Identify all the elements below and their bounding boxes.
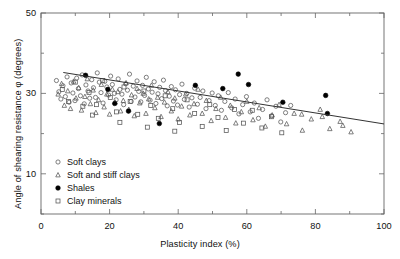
legend-marker-open-square-icon: [52, 196, 64, 206]
data-point: [179, 104, 184, 108]
data-point: [54, 78, 58, 82]
x-tick-label: 60: [242, 221, 252, 231]
legend-item-shales[interactable]: Shales: [52, 183, 95, 193]
data-point: [193, 83, 198, 88]
data-point: [283, 111, 287, 115]
data-point: [173, 129, 177, 133]
data-point: [112, 101, 117, 106]
data-point: [320, 114, 325, 118]
data-point: [328, 126, 333, 130]
data-point: [135, 79, 139, 83]
scatter-chart-figure: Angle of shearing resistance φ (degrees)…: [0, 0, 400, 259]
legend-marker-open-triangle-icon: [52, 170, 64, 180]
data-point: [246, 82, 251, 87]
legend-glyph: [56, 186, 61, 191]
data-point: [110, 87, 115, 91]
data-point: [62, 103, 66, 107]
data-point: [236, 72, 241, 77]
data-point: [129, 93, 134, 97]
data-point: [200, 111, 205, 115]
data-point: [234, 121, 239, 125]
data-point: [223, 115, 228, 119]
data-point: [78, 94, 82, 98]
legend-label: Clay minerals: [67, 196, 122, 206]
data-point: [188, 113, 193, 117]
data-point: [300, 128, 305, 132]
data-point: [190, 96, 194, 100]
data-point: [145, 125, 149, 129]
legend-label: Soft clays: [67, 157, 106, 167]
data-point: [349, 129, 354, 133]
data-point: [201, 89, 205, 93]
data-point: [121, 98, 126, 102]
data-point: [280, 131, 284, 135]
data-point: [131, 84, 135, 88]
legend-item-clay-minerals[interactable]: Clay minerals: [52, 196, 122, 206]
data-point: [86, 89, 90, 93]
data-point: [265, 98, 269, 102]
data-point: [216, 116, 220, 120]
data-point: [153, 105, 158, 109]
data-point: [256, 116, 260, 120]
data-point: [177, 93, 181, 97]
data-point: [144, 75, 148, 79]
data-point: [138, 101, 143, 105]
legend-marker-filled-circle-icon: [52, 183, 64, 193]
data-point: [210, 91, 214, 95]
data-point: [318, 107, 323, 111]
data-point: [73, 99, 77, 103]
data-point: [244, 95, 248, 99]
data-point: [136, 112, 140, 116]
x-tick-label: 0: [38, 221, 43, 231]
x-tick-label: 20: [104, 221, 114, 231]
data-point: [187, 105, 191, 109]
data-point: [281, 100, 286, 105]
data-point: [95, 103, 99, 107]
data-point: [169, 84, 173, 88]
data-point: [127, 72, 131, 76]
data-point: [82, 102, 86, 106]
data-point: [241, 103, 245, 107]
data-point: [126, 109, 131, 114]
data-point: [65, 75, 69, 79]
data-point: [209, 118, 214, 122]
data-point: [107, 112, 112, 116]
legend-label: Shales: [67, 183, 95, 193]
data-point: [116, 77, 120, 81]
data-point: [99, 90, 103, 94]
x-tick-label: 80: [310, 221, 320, 231]
data-point: [68, 106, 73, 110]
data-point: [95, 71, 99, 75]
legend-marker-open-circle-icon: [52, 157, 64, 167]
data-point: [309, 117, 314, 121]
data-point: [167, 94, 171, 98]
data-point: [157, 121, 162, 126]
y-tick-label: 10: [9, 169, 36, 179]
series-clay-minerals: [60, 79, 284, 135]
data-point: [154, 101, 158, 105]
y-tick-label: 50: [9, 8, 36, 18]
y-tick-label: 30: [9, 88, 36, 98]
data-point: [84, 83, 88, 87]
data-point: [149, 103, 153, 107]
data-point: [129, 99, 133, 103]
data-point: [71, 91, 75, 95]
data-point: [279, 120, 283, 124]
x-tick-label: 100: [376, 221, 391, 231]
data-point: [90, 78, 94, 82]
legend-glyph: [56, 160, 60, 164]
data-point: [200, 124, 204, 128]
x-tick-label: 40: [173, 221, 183, 231]
data-point: [224, 128, 228, 132]
data-point: [251, 117, 256, 121]
data-point: [198, 95, 202, 99]
legend-item-soft-clays[interactable]: Soft clays: [52, 157, 106, 167]
data-point: [144, 111, 149, 115]
data-point: [171, 99, 175, 103]
data-point: [220, 86, 225, 91]
data-point: [241, 121, 245, 125]
legend-item-soft-and-stiff-clays[interactable]: Soft and stiff clays: [52, 170, 140, 180]
data-point: [214, 106, 219, 110]
data-point: [204, 107, 208, 111]
data-point: [74, 96, 79, 100]
